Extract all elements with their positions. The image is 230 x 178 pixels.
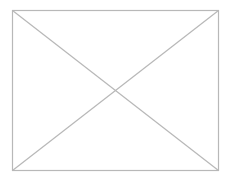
image-placeholder [0,0,230,178]
crossed-box-icon [0,0,230,178]
